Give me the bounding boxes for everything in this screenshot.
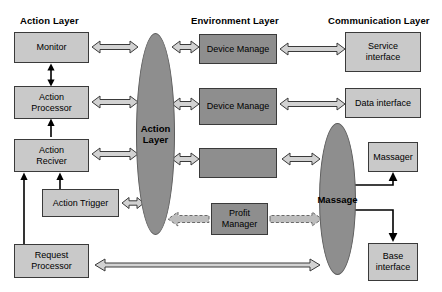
connector-device-manage-3-to-massage [282,153,320,165]
node-device-manage-1[interactable]: Device Manage [199,34,277,64]
connector-oval-to-device-manage-1 [172,41,199,53]
oval-action-layer[interactable]: Action Layer [136,33,175,235]
node-action-processor[interactable]: Action Processor [14,86,89,119]
node-massager[interactable]: Massager [368,142,418,172]
connector-oval-to-profit-manager [168,212,209,226]
connector-oval-to-device-manage-3 [172,153,199,165]
node-profit-manager[interactable]: Profit Manager [211,203,268,235]
node-service-interface[interactable]: Service interface [345,32,421,72]
connector-request-processor-to-reciver [20,173,27,245]
connector-request-processor-to-massage [95,259,320,271]
node-action-reciver[interactable]: Action Reciver [14,139,89,172]
oval-massage[interactable]: Massage [319,123,356,275]
connector-profit-manager-to-massage [270,212,322,226]
connector-action-reciver-to-action-processor [47,119,54,138]
connector-device-manage-1-to-service [280,43,345,55]
connector-monitor-to-action-oval [92,41,138,53]
layer-title-environment: Environment Layer [191,16,279,26]
node-device-manage-2[interactable]: Device Manage [199,88,277,125]
node-base-interface[interactable]: Base interface [368,243,418,281]
connector-action-processor-to-oval [92,96,138,108]
node-device-manage-3[interactable] [199,148,277,178]
connector-monitor-action-processor [47,64,54,87]
layer-title-action: Action Layer [20,16,79,26]
connector-action-reciver-to-oval [92,148,138,160]
layer-title-communication: Communication Layer [328,16,430,26]
node-data-interface[interactable]: Data interface [345,88,421,118]
node-action-trigger[interactable]: Action Trigger [42,189,119,217]
connector-action-trigger-to-reciver [56,173,63,190]
diagram-canvas: Action Layer Environment Layer Communica… [0,0,442,292]
node-monitor[interactable]: Monitor [14,32,89,63]
node-request-processor[interactable]: Request Processor [14,244,89,278]
connector-device-manage-2-to-data [280,98,345,110]
connector-oval-to-device-manage-2 [172,98,199,110]
